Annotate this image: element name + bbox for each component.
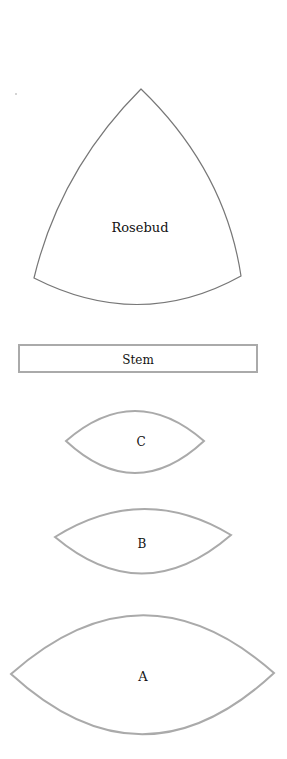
petal-c-label: C: [136, 435, 145, 449]
rosebud-label: Rosebud: [112, 220, 169, 235]
stem-label: Stem: [122, 353, 154, 367]
petal-a-label: A: [137, 669, 148, 684]
stray-dot: [15, 93, 16, 94]
petal-b-label: B: [138, 537, 147, 551]
rosebud-piece: Rosebud: [34, 89, 241, 305]
petal-a: A: [11, 615, 274, 734]
pattern-sheet: Rosebud Stem C B A: [0, 0, 287, 759]
stem-piece: Stem: [19, 345, 257, 372]
petal-b: B: [55, 509, 231, 574]
petal-c: C: [66, 411, 204, 473]
